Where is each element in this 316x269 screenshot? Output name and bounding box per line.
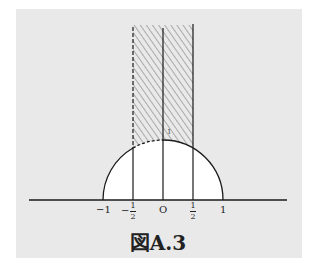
tick-label-neg-half-sign: − xyxy=(121,206,129,216)
tick-label-pos-half: 1 2 xyxy=(190,202,196,221)
frac-den: 2 xyxy=(190,213,195,221)
label-i-point: 1 xyxy=(167,128,171,136)
figure-caption: 図A.3 xyxy=(0,227,316,256)
tick-label-neg-one: −1 xyxy=(96,205,111,215)
tick-label-pos-one: 1 xyxy=(220,205,226,215)
frac-den: 2 xyxy=(130,213,135,221)
tick-label-origin: O xyxy=(159,205,167,215)
tick-label-neg-half: 1 2 xyxy=(130,202,136,221)
frac-num: 1 xyxy=(190,202,195,210)
frac-num: 1 xyxy=(130,202,135,210)
